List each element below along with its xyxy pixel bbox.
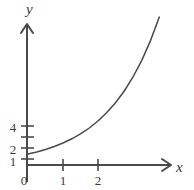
y-tick-label-1: 1 — [7, 155, 19, 168]
exponential-graph-figure: y x 0 4 2 1 1 2 — [0, 0, 194, 190]
x-tick-label-2: 2 — [92, 174, 104, 187]
y-tick-label-4: 4 — [7, 121, 19, 134]
origin-tick-label: 0 — [19, 174, 29, 187]
x-axis-title: x — [176, 160, 183, 175]
exponential-curve — [28, 17, 159, 154]
x-tick-label-1: 1 — [57, 174, 69, 187]
y-axis-title: y — [26, 2, 33, 17]
graph-canvas — [0, 0, 194, 190]
x-axis — [27, 159, 171, 171]
